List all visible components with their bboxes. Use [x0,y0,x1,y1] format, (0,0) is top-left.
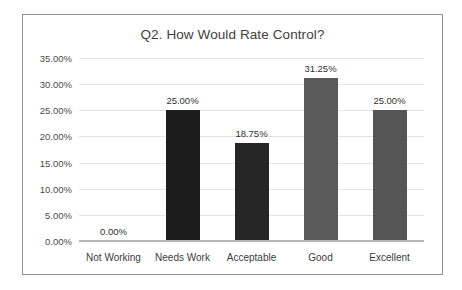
bar[interactable] [166,110,200,241]
y-axis-tick-label: 30.00% [40,79,72,90]
bar-value-label: 31.25% [304,63,336,74]
y-axis-tick-label: 0.00% [45,236,72,247]
x-axis-line [79,240,424,241]
x-axis-category-label: Good [308,252,332,263]
x-axis-category-label: Needs Work [155,252,210,263]
bar-group: 25.00%Needs Work [148,58,217,241]
bar[interactable] [235,143,269,241]
bar-value-label: 18.75% [235,128,267,139]
bar-value-label: 25.00% [166,95,198,106]
x-axis-category-label: Not Working [86,252,141,263]
bar-value-label: 0.00% [100,226,127,237]
bar[interactable] [304,78,338,241]
y-axis-tick-label: 25.00% [40,105,72,116]
gridline [79,241,424,242]
chart-title: Q2. How Would Rate Control? [23,27,442,42]
y-axis-tick-label: 35.00% [40,53,72,64]
bar-value-label: 25.00% [373,95,405,106]
bar-group: 25.00%Excellent [355,58,424,241]
y-axis-tick-label: 10.00% [40,183,72,194]
x-axis-category-label: Excellent [369,252,410,263]
y-axis-tick-label: 20.00% [40,131,72,142]
bar-group: 18.75%Acceptable [217,58,286,241]
y-axis-tick-label: 5.00% [45,209,72,220]
x-axis-category-label: Acceptable [227,252,276,263]
bar[interactable] [373,110,407,241]
y-axis-tick-label: 15.00% [40,157,72,168]
plot-area: 0.00%5.00%10.00%15.00%20.00%25.00%30.00%… [79,58,424,241]
bar-group: 31.25%Good [286,58,355,241]
chart-frame: Q2. How Would Rate Control? 0.00%5.00%10… [22,14,443,275]
bar-group: 0.00%Not Working [79,58,148,241]
